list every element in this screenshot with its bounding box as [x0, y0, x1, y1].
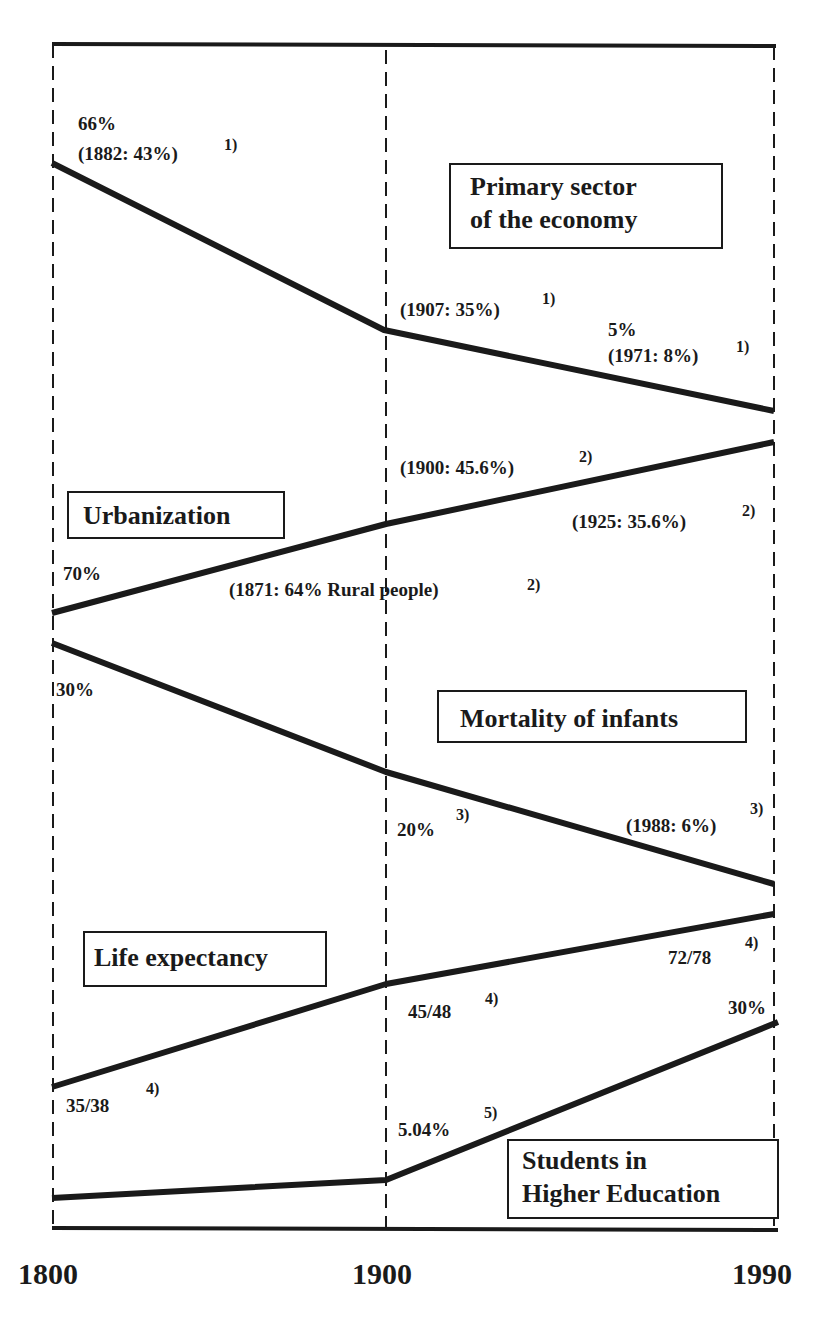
primary-footnote-end: 1) — [736, 338, 749, 356]
x-tick-1900: 1900 — [352, 1257, 412, 1290]
primary-end-note: (1971: 8%) — [608, 345, 698, 367]
urbanization-title: Urbanization — [83, 501, 231, 530]
x-tick-1990: 1990 — [732, 1257, 792, 1290]
x-tick-1800: 1800 — [18, 1257, 78, 1290]
primary-footnote-mid: 1) — [542, 290, 555, 308]
students-title-line2: Higher Education — [522, 1179, 721, 1208]
students-footnote-mid: 5) — [484, 1104, 497, 1122]
life-footnote-end: 4) — [745, 934, 758, 952]
urban-footnote-1900: 2) — [579, 448, 592, 466]
students-end-value: 30% — [728, 997, 766, 1018]
mortality-footnote-mid: 3) — [456, 806, 469, 824]
primary-end-value: 5% — [608, 319, 637, 340]
primary-mid-note: (1907: 35%) — [400, 299, 500, 321]
top-border — [52, 44, 776, 46]
mortality-title: Mortality of infants — [460, 704, 678, 733]
urban-footnote-1871: 2) — [527, 576, 540, 594]
life-start-value: 35/38 — [66, 1095, 109, 1116]
chart-container: 66% (1882: 43%) 1) Primary sector of the… — [0, 0, 830, 1327]
urban-footnote-1925: 2) — [742, 502, 755, 520]
life-expectancy-title: Life expectancy — [94, 943, 268, 972]
life-end-value: 72/78 — [668, 947, 711, 968]
urban-start-value: 70% — [63, 563, 101, 584]
urban-note-1900: (1900: 45.6%) — [400, 457, 514, 479]
mortality-start-value: 30% — [56, 679, 94, 700]
primary-sector-title-line2: of the economy — [470, 205, 638, 234]
primary-start-value: 66% — [78, 113, 116, 134]
mortality-end-note: (1988: 6%) — [626, 815, 716, 837]
students-title-line1: Students in — [522, 1146, 648, 1175]
historical-trends-chart: 66% (1882: 43%) 1) Primary sector of the… — [0, 0, 830, 1327]
primary-footnote-start: 1) — [224, 136, 237, 154]
line-infant-mortality — [52, 643, 774, 884]
bottom-axis-line — [52, 1228, 778, 1230]
life-footnote-start: 4) — [146, 1080, 159, 1098]
urban-note-1871: (1871: 64% Rural people) — [229, 579, 439, 601]
mortality-mid-value: 20% — [397, 819, 435, 840]
life-footnote-mid: 4) — [485, 990, 498, 1008]
primary-sector-title-line1: Primary sector — [470, 172, 637, 201]
students-mid-value: 5.04% — [398, 1119, 450, 1140]
urban-note-1925: (1925: 35.6%) — [572, 511, 686, 533]
primary-start-note: (1882: 43%) — [78, 143, 178, 165]
life-mid-value: 45/48 — [408, 1001, 451, 1022]
mortality-footnote-end: 3) — [750, 800, 763, 818]
